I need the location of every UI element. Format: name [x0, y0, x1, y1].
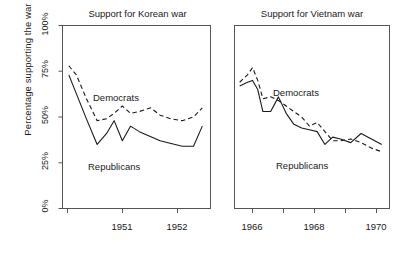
series-line-republicans-vietnam — [240, 80, 382, 144]
x-axis-ticks-korean — [68, 209, 178, 214]
series-line-republicans-korean — [69, 75, 203, 146]
figure-root: Percentage supporting the war 0% 25% 50%… — [0, 0, 412, 259]
series-line-democrats-vietnam — [240, 68, 382, 152]
data-series-layer — [69, 66, 382, 152]
x-axis-ticks-vietnam — [253, 209, 377, 214]
y-axis-ticks — [59, 26, 63, 209]
series-line-democrats-korean — [69, 66, 203, 121]
panel-frame-korean — [63, 26, 211, 209]
panel-frame-vietnam — [235, 26, 390, 209]
plot-canvas — [0, 0, 412, 259]
